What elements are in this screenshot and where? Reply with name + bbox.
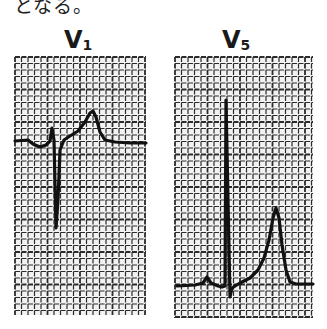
ecg-figure: [0, 0, 327, 329]
ecg-panel-v5: [175, 57, 313, 318]
ecg-panel-v1: [15, 57, 146, 315]
